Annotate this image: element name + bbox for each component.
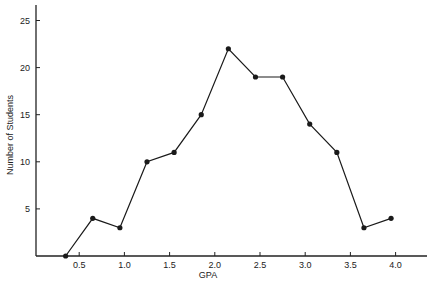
- x-tick-label: 3.0: [299, 260, 312, 270]
- x-tick-label: 2.5: [254, 260, 267, 270]
- data-point-marker: [334, 150, 339, 155]
- y-tick-label: 10: [20, 157, 30, 167]
- x-axis-title: GPA: [199, 270, 217, 280]
- axes: 5101520250.51.01.52.02.53.03.54.0: [20, 5, 427, 270]
- y-tick-label: 25: [20, 16, 30, 26]
- data-point-marker: [144, 159, 149, 164]
- data-point-marker: [388, 216, 393, 221]
- y-tick-label: 15: [20, 110, 30, 120]
- series-line: [66, 49, 391, 256]
- x-tick-label: 1.5: [163, 260, 176, 270]
- data-point-marker: [117, 225, 122, 230]
- data-point-marker: [307, 122, 312, 127]
- data-point-marker: [199, 112, 204, 117]
- data-series: [63, 46, 394, 258]
- data-point-marker: [90, 216, 95, 221]
- x-tick-label: 2.0: [209, 260, 222, 270]
- x-tick-label: 3.5: [344, 260, 357, 270]
- y-axis-title: Number of Students: [5, 94, 15, 175]
- data-point-marker: [226, 46, 231, 51]
- data-point-marker: [253, 74, 258, 79]
- data-point-marker: [361, 225, 366, 230]
- y-tick-label: 5: [25, 204, 30, 214]
- data-point-marker: [280, 74, 285, 79]
- x-tick-label: 4.0: [389, 260, 402, 270]
- data-point-marker: [172, 150, 177, 155]
- gpa-line-chart: 5101520250.51.01.52.02.53.03.54.0 GPA Nu…: [0, 0, 434, 294]
- y-tick-label: 20: [20, 63, 30, 73]
- x-tick-label: 1.0: [118, 260, 131, 270]
- data-point-marker: [63, 253, 68, 258]
- x-tick-label: 0.5: [73, 260, 86, 270]
- cropped-caption: [0, 286, 434, 294]
